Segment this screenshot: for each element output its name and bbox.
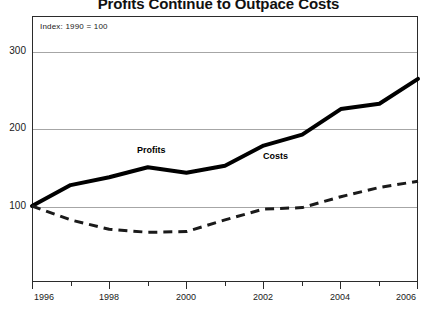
x-tick-1999 [148,282,149,286]
y-tick-label-300: 300 [0,45,26,56]
gridline-300 [33,52,417,53]
y-tick-label-200: 200 [0,122,26,133]
gridline-200 [33,129,417,130]
x-tick-2004 [340,282,341,289]
x-tick-label-2002: 2002 [253,292,273,302]
plot-area [32,16,418,282]
x-tick-label-1996: 1996 [34,292,54,302]
index-note: Index: 1990 = 100 [40,22,108,31]
x-tick-1998 [109,282,110,289]
x-tick-2001 [225,282,226,286]
x-tick-label-2004: 2004 [330,292,350,302]
series-label-profits: Profits [137,145,166,155]
series-label-costs: Costs [263,151,288,161]
x-tick-2005 [379,282,380,286]
x-tick-label-2006: 2006 [396,292,416,302]
x-tick-label-2000: 2000 [176,292,196,302]
y-tick-label-100: 100 [0,200,26,211]
x-tick-1996 [32,282,33,289]
x-tick-2000 [186,282,187,289]
x-tick-2006 [417,282,418,289]
x-tick-label-1998: 1998 [99,292,119,302]
chart-screenshot: Profits Continue to Outpace Costs Index:… [0,0,437,316]
x-tick-2002 [263,282,264,289]
x-tick-2003 [302,282,303,286]
x-tick-1997 [71,282,72,286]
gridline-100 [33,207,417,208]
page-title: Profits Continue to Outpace Costs [0,0,437,12]
